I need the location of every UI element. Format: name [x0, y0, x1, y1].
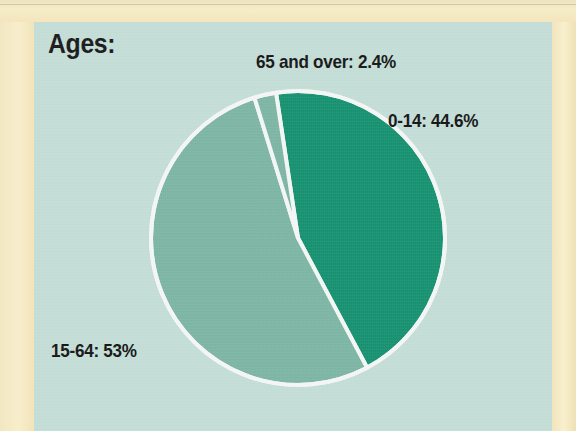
pie-chart-graphic [34, 22, 552, 431]
paper-border-left [0, 0, 34, 431]
pie-label-65-and-over: 65 and over: 2.4% [256, 51, 396, 73]
pie-chart-figure: Ages: 65 and over: 2.4% 0-14: 44.6% 15-6… [0, 0, 576, 431]
paper-hairline [0, 4, 576, 5]
pie-label-15-64: 15-64: 53% [51, 340, 137, 362]
pie-label-0-14: 0-14: 44.6% [388, 110, 478, 132]
page-title: Ages: [48, 29, 115, 60]
paper-border-right [552, 0, 576, 431]
chart-panel: Ages: 65 and over: 2.4% 0-14: 44.6% 15-6… [34, 22, 552, 431]
